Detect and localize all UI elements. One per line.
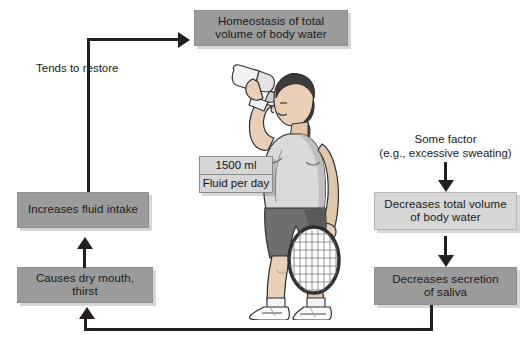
diagram-canvas: 1500 ml Fluid per day Homeostasis of tot…: [0, 0, 525, 355]
node-homeostasis-line2: volume of body water: [215, 28, 326, 42]
node-increases-fluid-intake: Increases fluid intake: [17, 192, 149, 228]
arrowhead-into-increases-intake: [77, 237, 93, 249]
connector-restore-vertical: [87, 38, 90, 192]
callout-amount: 1500 ml: [200, 157, 272, 174]
node-decreases-saliva-secretion: Decreases secretion of saliva: [374, 267, 517, 305]
node-homeostasis-line1: Homeostasis of total: [218, 15, 324, 29]
connector-restore-horizontal: [87, 38, 180, 41]
node-causes-dry-mouth: Causes dry mouth, thirst: [17, 267, 153, 303]
fluid-per-day-callout: 1500 ml Fluid per day: [199, 156, 273, 193]
label-some-factor: Some factor (e.g., excessive sweating): [374, 133, 517, 160]
node-decreases-saliva-line1: Decreases secretion: [392, 273, 499, 287]
connector-factor-to-volume: [444, 162, 447, 182]
label-some-factor-line1: Some factor: [374, 133, 517, 147]
label-some-factor-line2: (e.g., excessive sweating): [374, 147, 517, 161]
node-decreases-saliva-line2: of saliva: [424, 286, 467, 300]
connector-loop-left-vertical: [84, 318, 87, 330]
node-causes-dry-mouth-label: Causes dry mouth, thirst: [24, 272, 146, 299]
connector-volume-to-saliva: [444, 236, 447, 256]
callout-period: Fluid per day: [200, 174, 272, 192]
connector-thirst-to-intake: [83, 248, 86, 268]
node-decreases-total-volume: Decreases total volume of body water: [374, 192, 517, 230]
arrowhead-into-decreases-saliva: [438, 255, 454, 267]
arrowhead-into-decreases-volume: [438, 180, 454, 192]
label-tends-to-restore-text: Tends to restore: [36, 62, 118, 74]
node-decreases-total-volume-line2: of body water: [410, 211, 480, 225]
node-homeostasis: Homeostasis of total volume of body wate…: [194, 10, 348, 46]
connector-loop-bottom-horizontal: [84, 328, 433, 331]
arrowhead-into-homeostasis: [178, 32, 190, 48]
arrowhead-into-causes-dry-mouth: [79, 307, 95, 319]
node-increases-fluid-intake-label: Increases fluid intake: [28, 203, 138, 217]
node-decreases-total-volume-line1: Decreases total volume: [384, 198, 506, 212]
label-tends-to-restore: Tends to restore: [36, 62, 156, 76]
